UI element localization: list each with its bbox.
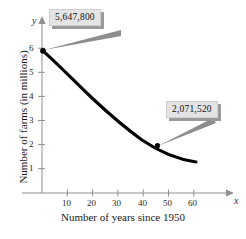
x-tick-label-60: 60 — [188, 199, 197, 208]
plot-area — [0, 0, 246, 239]
x-tick-label-10: 10 — [62, 199, 71, 208]
x-tick-label-30: 30 — [112, 199, 121, 208]
callout-leader-bottom — [158, 118, 216, 146]
y-axis-symbol: y — [32, 16, 36, 26]
x-tick-label-50: 50 — [163, 199, 172, 208]
data-point-marker-end — [155, 143, 160, 148]
chart-figure: 6 5 4 3 2 1 10 20 30 40 50 60 y x Number… — [0, 0, 246, 239]
callout-leader-top — [44, 30, 121, 50]
x-axis-symbol: x — [234, 196, 238, 206]
y-tick-label-2: 2 — [29, 140, 34, 149]
x-tick-label-40: 40 — [138, 199, 147, 208]
y-axis-title: Number of farms (in millions) — [17, 32, 29, 202]
y-axis-arrow-icon — [38, 16, 45, 24]
x-axis-title: Number of years since 1950 — [0, 211, 246, 223]
y-tick-label-1: 1 — [29, 164, 34, 173]
x-axis-arrow-icon — [226, 189, 234, 196]
y-tick-label-3: 3 — [29, 116, 34, 125]
data-point-marker-start — [40, 48, 46, 54]
callout-value-end: 2,071,520 — [166, 101, 218, 118]
y-tick-label-4: 4 — [29, 92, 34, 101]
y-tick-label-6: 6 — [29, 44, 34, 53]
y-tick-label-5: 5 — [29, 68, 34, 77]
x-tick-label-20: 20 — [87, 199, 96, 208]
callout-value-start: 5,647,800 — [49, 9, 101, 26]
